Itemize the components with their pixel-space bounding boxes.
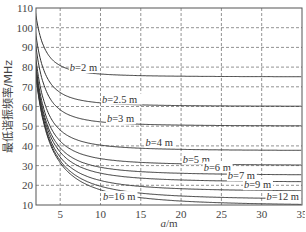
curve-label: b=3 m: [107, 113, 134, 124]
y-tick-label: 50: [22, 120, 34, 132]
y-tick-label: 40: [22, 140, 34, 152]
curve-b-9-m: [30, 0, 302, 191]
x-axis-ticks: 5101520253035: [57, 208, 305, 220]
curve-label: b=2 m: [70, 62, 97, 73]
curve-label: b=16 m: [103, 191, 135, 202]
resonant-frequency-chart: b=2 mb=2.5 mb=3 mb=4 mb=5 mb=6 mb=7 mb=9…: [0, 0, 305, 232]
y-tick-label: 70: [22, 81, 34, 93]
y-tick-label: 20: [22, 179, 34, 191]
x-tick-label: 15: [135, 208, 147, 220]
x-tick-label: 25: [216, 208, 228, 220]
y-tick-label: 80: [22, 61, 34, 73]
x-tick-label: 35: [297, 208, 306, 220]
y-tick-label: 60: [22, 101, 34, 113]
x-tick-label: 5: [57, 208, 63, 220]
y-axis-ticks: 102030405060708090100110: [17, 2, 34, 211]
y-tick-label: 100: [17, 22, 34, 34]
curve-label: b=6 m: [204, 162, 231, 173]
y-tick-label: 10: [22, 199, 34, 211]
curve-b-4-m: [30, 0, 302, 150]
curve-label: b=9 m: [244, 179, 271, 190]
curve-b-2-5-m: [30, 0, 302, 106]
curve-b-16-m: [30, 0, 302, 204]
x-tick-label: 30: [256, 208, 268, 220]
x-axis-label: a/m: [160, 217, 178, 229]
x-tick-label: 10: [95, 208, 107, 220]
curve-b-12-m: [30, 0, 302, 199]
y-axis-label: 最低谐振频率/MHz: [1, 60, 15, 153]
curve-label: b=12 m: [267, 191, 299, 202]
curves: [30, 0, 302, 204]
y-tick-label: 30: [22, 160, 34, 172]
curve-b-7-m: [30, 0, 302, 182]
curve-label: b=2.5 m: [102, 94, 137, 105]
y-tick-label: 90: [22, 41, 34, 53]
curve-label: b=4 m: [146, 137, 173, 148]
y-tick-label: 110: [17, 2, 34, 14]
